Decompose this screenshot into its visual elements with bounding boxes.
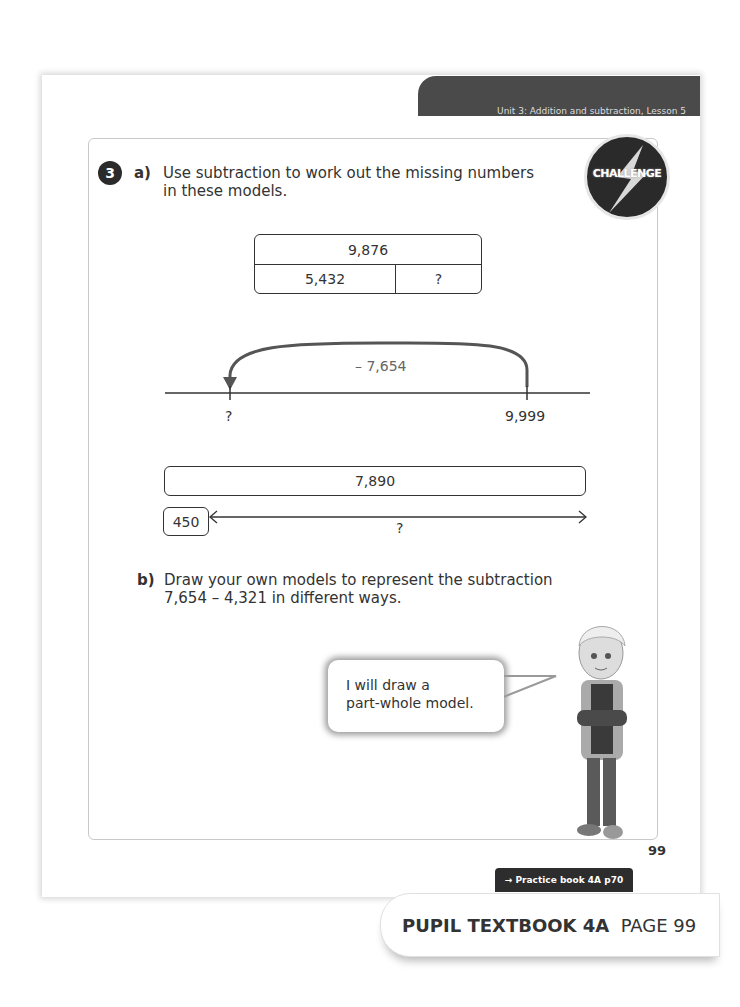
page-number: 99 bbox=[648, 843, 666, 858]
part-whole-bar-model: 9,876 5,432 ? bbox=[254, 234, 482, 294]
part-b-instructions: Draw your own models to represent the su… bbox=[164, 571, 553, 607]
jump-label: – 7,654 bbox=[355, 358, 407, 374]
bar-whole-value: 9,876 bbox=[255, 235, 481, 264]
bar-part-2-unknown: ? bbox=[396, 264, 481, 293]
speech-bubble-tail bbox=[496, 672, 560, 702]
part-a-line2: in these models. bbox=[163, 182, 534, 200]
part-b-label: b) bbox=[137, 571, 155, 589]
footer-label: PUPIL TEXTBOOK 4A PAGE 99 bbox=[402, 915, 696, 936]
part-a-instructions: Use subtraction to work out the missing … bbox=[163, 164, 534, 200]
part-a-line1: Use subtraction to work out the missing … bbox=[163, 164, 534, 182]
boy-character-illustration bbox=[565, 618, 640, 843]
challenge-badge-text: CHALLENGE bbox=[587, 167, 667, 180]
speech-bubble: I will draw a part-whole model. bbox=[328, 660, 504, 732]
question-number-badge: 3 bbox=[98, 161, 122, 185]
number-line-end-value: 9,999 bbox=[505, 408, 545, 424]
part-b-line2: 7,654 – 4,321 in different ways. bbox=[164, 589, 553, 607]
speech-line1: I will draw a bbox=[346, 676, 504, 694]
difference-unknown: ? bbox=[396, 520, 403, 536]
speech-line2: part-whole model. bbox=[346, 694, 504, 712]
bar-part-1-value: 5,432 bbox=[255, 264, 396, 293]
textbook-label: PUPIL TEXTBOOK 4A bbox=[402, 915, 609, 936]
part-a-label: a) bbox=[134, 164, 151, 182]
whole-bar: 7,890 bbox=[164, 466, 586, 496]
challenge-badge: CHALLENGE bbox=[584, 134, 670, 220]
page-label: PAGE 99 bbox=[621, 915, 697, 936]
number-line-start-unknown: ? bbox=[225, 408, 232, 424]
part-bar: 450 bbox=[163, 507, 209, 536]
practice-book-link[interactable]: → Practice book 4A p70 bbox=[495, 868, 633, 892]
part-b-line1: Draw your own models to represent the su… bbox=[164, 571, 553, 589]
unit-banner: Unit 3: Addition and subtraction, Lesson… bbox=[418, 76, 700, 116]
